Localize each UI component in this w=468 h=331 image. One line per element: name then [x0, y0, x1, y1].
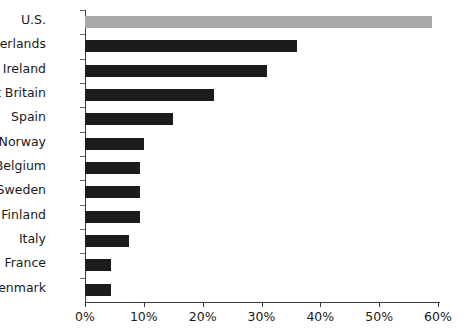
x-axis-tick [262, 302, 263, 307]
bar-denmark [85, 284, 111, 296]
category-tick [80, 83, 85, 84]
category-tick [80, 180, 85, 181]
bar-r-of-ireland [85, 65, 267, 77]
bar-netherlands [85, 40, 297, 52]
bar-finland [85, 211, 140, 223]
category-label: Belgium [0, 159, 46, 172]
bar-belgium [85, 162, 140, 174]
x-axis-tick-label: 20% [173, 309, 233, 324]
category-label: Denmark [0, 281, 46, 294]
x-axis-tick-label: 50% [349, 309, 409, 324]
x-axis-tick-label: 40% [290, 309, 350, 324]
category-tick [80, 34, 85, 35]
bar-row: Denmark [85, 278, 438, 302]
x-axis-tick [320, 302, 321, 307]
bar-great-britain [85, 89, 214, 101]
bar-row: France [85, 253, 438, 277]
plot-area: U.S.NetherlandsR of IrelandGreat Britain… [85, 10, 438, 302]
category-tick [80, 205, 85, 206]
x-axis-tick [203, 302, 204, 307]
category-tick [80, 132, 85, 133]
category-label: Finland [0, 208, 46, 221]
category-tick [80, 59, 85, 60]
category-label: Spain [0, 110, 46, 123]
bar-italy [85, 235, 129, 247]
bar-france [85, 259, 111, 271]
category-label: Norway [0, 135, 46, 148]
x-axis-tick-label: 10% [114, 309, 174, 324]
x-axis-tick-label: 0% [55, 309, 115, 324]
value-axis-line [85, 302, 440, 303]
x-axis-tick [379, 302, 380, 307]
category-label: France [0, 256, 46, 269]
x-axis-tick-label: 30% [232, 309, 292, 324]
bar-row: Italy [85, 229, 438, 253]
category-tick [80, 156, 85, 157]
bar-sweden [85, 186, 140, 198]
category-tick [80, 253, 85, 254]
bar-row: Great Britain [85, 83, 438, 107]
category-label: Sweden [0, 183, 46, 196]
bar-norway [85, 138, 144, 150]
bar-row: Spain [85, 107, 438, 131]
category-tick [80, 10, 85, 11]
bar-spain [85, 113, 173, 125]
x-axis-tick [144, 302, 145, 307]
category-label: Italy [0, 232, 46, 245]
category-tick [80, 229, 85, 230]
bar-row: Norway [85, 132, 438, 156]
bar-row: Belgium [85, 156, 438, 180]
bar-u-s [85, 16, 432, 28]
category-tick [80, 107, 85, 108]
x-axis-tick [85, 302, 86, 307]
bar-chart: U.S.NetherlandsR of IrelandGreat Britain… [0, 0, 468, 331]
chart-title [95, 0, 425, 2]
bar-row: Finland [85, 205, 438, 229]
bar-row: U.S. [85, 10, 438, 34]
x-axis-tick-label: 60% [408, 309, 468, 324]
category-label: R of Ireland [0, 62, 46, 75]
bar-row: R of Ireland [85, 59, 438, 83]
bar-row: Netherlands [85, 34, 438, 58]
category-label: Netherlands [0, 37, 46, 50]
x-axis-tick [438, 302, 439, 307]
category-tick [80, 278, 85, 279]
bar-row: Sweden [85, 180, 438, 204]
category-label: U.S. [0, 13, 46, 26]
category-label: Great Britain [0, 86, 46, 99]
